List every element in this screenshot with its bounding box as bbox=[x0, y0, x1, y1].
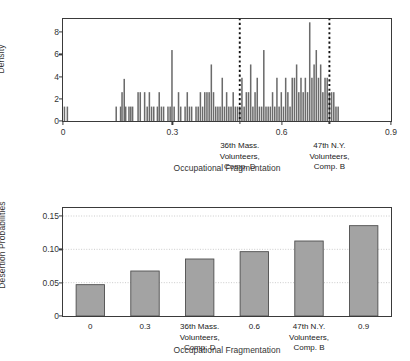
barchart-category-label-line: 0.9 bbox=[358, 322, 369, 333]
histogram-bin bbox=[146, 107, 148, 121]
histogram-bin bbox=[274, 107, 276, 121]
histogram-bin bbox=[289, 107, 291, 121]
histogram-bin bbox=[64, 107, 66, 121]
histogram-bin bbox=[204, 92, 206, 121]
histogram-x-tick-mark bbox=[62, 121, 63, 125]
histogram-y-axis-label: Density bbox=[0, 44, 6, 73]
histogram-bin bbox=[254, 92, 256, 121]
annotation-label-line: Volunteers, bbox=[309, 152, 349, 163]
histogram-bin bbox=[294, 78, 296, 121]
barchart-y-tick-mark bbox=[59, 249, 63, 250]
histogram-bin bbox=[298, 92, 300, 121]
histogram-bin bbox=[153, 107, 155, 121]
histogram-bin bbox=[67, 107, 69, 121]
histogram-bin bbox=[128, 107, 130, 121]
histogram-bin bbox=[305, 78, 307, 121]
histogram-bin bbox=[215, 107, 217, 121]
histogram-y-tick-mark bbox=[59, 98, 63, 99]
histogram-bin bbox=[243, 107, 245, 121]
histogram-x-tick-label: 0.9 bbox=[385, 127, 397, 137]
histogram-bin bbox=[276, 78, 278, 121]
histogram-bin bbox=[158, 92, 160, 121]
barchart-x-axis-label: Occupational Fragmentation bbox=[62, 345, 392, 355]
histogram-bin bbox=[184, 107, 186, 121]
barchart-bar bbox=[349, 226, 377, 316]
barchart-y-tick-mark bbox=[59, 315, 63, 316]
histogram-bin bbox=[324, 78, 326, 121]
barchart-bars bbox=[63, 208, 391, 316]
histogram-bin bbox=[278, 107, 280, 121]
barchart-panel: Desertion Probabilities 00.050.100.15 00… bbox=[0, 185, 410, 361]
histogram-bin bbox=[202, 107, 204, 121]
histogram-y-tick-mark bbox=[59, 76, 63, 77]
histogram-bin bbox=[263, 50, 265, 121]
histogram-bin bbox=[261, 107, 263, 121]
histogram-bin bbox=[191, 107, 193, 121]
barchart-y-tick-label: 0.10 bbox=[42, 244, 59, 254]
histogram-bin bbox=[226, 92, 228, 121]
histogram-bin bbox=[270, 107, 272, 121]
histogram-bin bbox=[329, 92, 331, 121]
histogram-y-tick-label: 2 bbox=[54, 94, 59, 104]
histogram-bin bbox=[208, 92, 210, 121]
histogram-y-tick-label: 4 bbox=[54, 72, 59, 82]
histogram-bin bbox=[256, 78, 258, 121]
histogram-y-tick-label: 8 bbox=[54, 27, 59, 37]
barchart-y-tick-label: 0.05 bbox=[42, 278, 59, 288]
histogram-bin bbox=[322, 92, 324, 121]
histogram-bin bbox=[206, 92, 208, 121]
histogram-x-tick-label: 0 bbox=[61, 127, 66, 137]
histogram-bin bbox=[120, 107, 122, 121]
histogram-x-tick-mark bbox=[390, 121, 391, 125]
barchart-y-tick-mark bbox=[59, 282, 63, 283]
histogram-y-tick-label: 6 bbox=[54, 49, 59, 59]
histogram-panel: Density 02468 00.30.60.9 36th Mass.Volun… bbox=[0, 0, 410, 185]
histogram-bin bbox=[178, 92, 180, 121]
histogram-bin bbox=[335, 107, 337, 121]
histogram-bin bbox=[123, 79, 125, 121]
histogram-bin bbox=[265, 107, 267, 121]
histogram-bin bbox=[197, 107, 199, 121]
histogram-bin bbox=[140, 92, 142, 121]
figure-container: Density 02468 00.30.60.9 36th Mass.Volun… bbox=[0, 0, 410, 361]
histogram-bin bbox=[149, 92, 151, 121]
annotation-label-line: 47th N.Y. bbox=[309, 141, 349, 152]
histogram-x-axis-label: Occupational Fragmentation bbox=[62, 163, 392, 173]
histogram-bin bbox=[195, 107, 197, 121]
histogram-bin bbox=[285, 78, 287, 121]
histogram-bin bbox=[125, 107, 127, 121]
histogram-bin bbox=[115, 107, 117, 121]
barchart-category-label-line: 0.3 bbox=[139, 322, 150, 333]
histogram-y-tick-mark bbox=[59, 54, 63, 55]
barchart-bar bbox=[185, 259, 213, 316]
histogram-bin bbox=[291, 78, 293, 121]
barchart-category-label-line: Volunteers, bbox=[180, 333, 220, 344]
histogram-bin bbox=[144, 92, 146, 121]
annotation-tick-mark bbox=[239, 121, 240, 124]
histogram-bin bbox=[283, 107, 285, 121]
histogram-bin bbox=[171, 50, 173, 121]
histogram-bin bbox=[241, 78, 243, 121]
histogram-bin bbox=[320, 64, 322, 121]
histogram-bin bbox=[151, 107, 153, 121]
barchart-category-label: 0.6 bbox=[249, 322, 260, 333]
histogram-bin bbox=[331, 92, 333, 121]
histogram-bin bbox=[222, 78, 224, 121]
histogram-bin bbox=[267, 107, 269, 121]
histogram-bin bbox=[248, 92, 250, 121]
histogram-bin bbox=[281, 92, 283, 121]
histogram-bin bbox=[169, 107, 171, 121]
histogram-bin bbox=[237, 107, 239, 121]
histogram-bin bbox=[302, 92, 304, 121]
histogram-bin bbox=[163, 107, 165, 121]
histogram-bin bbox=[232, 92, 234, 121]
histogram-bin bbox=[217, 107, 219, 121]
histogram-bin bbox=[333, 92, 335, 121]
histogram-bin bbox=[219, 107, 221, 121]
barchart-category-label-line: 0 bbox=[88, 322, 92, 333]
histogram-bin bbox=[230, 107, 232, 121]
barchart-category-label-line: Volunteers, bbox=[289, 333, 329, 344]
histogram-bin bbox=[157, 107, 159, 121]
annotation-label-line: 36th Mass. bbox=[220, 141, 260, 152]
histogram-bars bbox=[63, 19, 391, 121]
